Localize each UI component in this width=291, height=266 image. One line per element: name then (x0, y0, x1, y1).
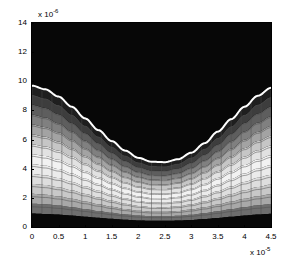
x-tick-mark (165, 225, 166, 228)
y-tick-mark (31, 23, 34, 24)
y-tick-label: 8 (2, 105, 27, 114)
x-tick-mark (271, 225, 272, 228)
x-tick-label: 0.5 (46, 232, 72, 241)
x-tick-mark (32, 225, 33, 228)
y-tick-mark (31, 81, 34, 82)
x-tick-label: 0 (19, 232, 45, 241)
y-tick-label: 4 (2, 164, 27, 173)
x-tick-mark (59, 225, 60, 228)
y-tick-label: 12 (2, 47, 27, 56)
y-exponent-power: -6 (53, 8, 58, 14)
y-tick-mark (31, 52, 34, 53)
x-tick-mark (85, 225, 86, 228)
x-tick-label: 4 (231, 232, 257, 241)
x-tick-label: 4.5 (258, 232, 284, 241)
y-tick-mark (31, 140, 34, 141)
plot-axes-frame (31, 22, 272, 228)
x-tick-label: 2 (125, 232, 151, 241)
x-tick-label: 3 (178, 232, 204, 241)
x-tick-label: 1.5 (99, 232, 125, 241)
x-tick-label: 1 (72, 232, 98, 241)
y-exponent-base: x 10 (38, 10, 53, 19)
x-axis-exponent-label: x 10-5 (250, 246, 270, 257)
y-tick-label: 10 (2, 76, 27, 85)
y-tick-label: 6 (2, 135, 27, 144)
x-tick-mark (191, 225, 192, 228)
x-tick-label: 2.5 (152, 232, 178, 241)
figure-canvas: x 10-6 x 10-5 0246810121400.511.522.533.… (0, 0, 291, 266)
y-tick-label: 0 (2, 222, 27, 231)
x-exponent-base: x 10 (250, 248, 265, 257)
x-tick-mark (244, 225, 245, 228)
y-tick-mark (31, 169, 34, 170)
y-axis-exponent-label: x 10-6 (38, 8, 58, 19)
x-tick-mark (138, 225, 139, 228)
x-tick-label: 3.5 (205, 232, 231, 241)
y-tick-mark (31, 110, 34, 111)
y-tick-label: 2 (2, 193, 27, 202)
heatmap-surface (32, 23, 271, 227)
y-tick-mark (31, 198, 34, 199)
x-tick-mark (218, 225, 219, 228)
x-tick-mark (112, 225, 113, 228)
y-tick-label: 14 (2, 18, 27, 27)
x-exponent-power: -5 (265, 246, 270, 252)
